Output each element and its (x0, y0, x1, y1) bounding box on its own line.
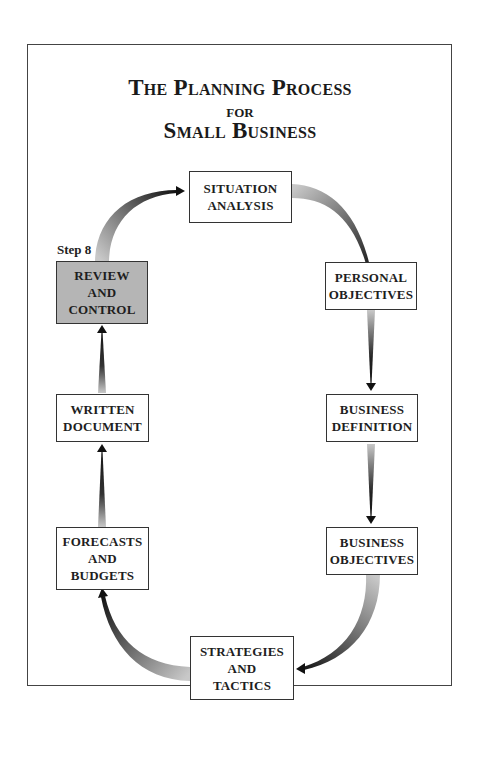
step-box-written-document: WRITTEN DOCUMENT (56, 394, 149, 442)
step-box-strategies-and-tactics: STRATEGIES AND TACTICS (190, 636, 294, 700)
arrow-forecasts-to-written (97, 444, 107, 527)
step-box-label-line: BUSINESS (340, 534, 404, 551)
arrow-strategies-to-forecasts (98, 588, 190, 681)
step-box-label-line: STRATEGIES (200, 643, 284, 660)
step-box-label-line: BUDGETS (71, 567, 135, 584)
step-box-label-line: AND (88, 284, 117, 301)
step-box-label-line: PERSONAL (335, 269, 407, 286)
arrow-review-to-situation (95, 186, 185, 261)
step-box-review-and-control: REVIEW AND CONTROL (56, 261, 148, 324)
step-8-label: Step 8 (57, 242, 91, 258)
step-box-label-line: DOCUMENT (63, 418, 142, 435)
arrow-personal-to-definition (366, 310, 376, 391)
step-box-label-line: OBJECTIVES (329, 286, 413, 303)
step-box-label-line: BUSINESS (340, 401, 404, 418)
step-box-personal-objectives: PERSONAL OBJECTIVES (325, 262, 417, 310)
step-box-situation-analysis: SITUATION ANALYSIS (189, 171, 292, 223)
step-box-label-line: WRITTEN (70, 401, 134, 418)
step-box-label-line: DEFINITION (332, 418, 413, 435)
step-box-label-line: SITUATION (204, 180, 278, 197)
step-box-label-line: TACTICS (213, 677, 271, 694)
arrow-definition-to-objectives (366, 444, 376, 524)
step-box-label-line: FORECASTS (63, 533, 143, 550)
step-box-label-line: OBJECTIVES (330, 551, 414, 568)
arrow-written-to-review (97, 325, 107, 393)
step-box-label-line: CONTROL (68, 301, 135, 318)
step-box-business-objectives: BUSINESS OBJECTIVES (326, 527, 418, 575)
step-box-label-line: ANALYSIS (207, 197, 273, 214)
step-box-label-line: AND (228, 660, 257, 677)
arrow-objectives-to-strategies (296, 574, 380, 674)
step-box-forecasts-and-budgets: FORECASTS AND BUDGETS (56, 527, 149, 590)
step-box-label-line: REVIEW (74, 267, 129, 284)
step-box-label-line: AND (88, 550, 117, 567)
step-box-business-definition: BUSINESS DEFINITION (326, 394, 418, 442)
